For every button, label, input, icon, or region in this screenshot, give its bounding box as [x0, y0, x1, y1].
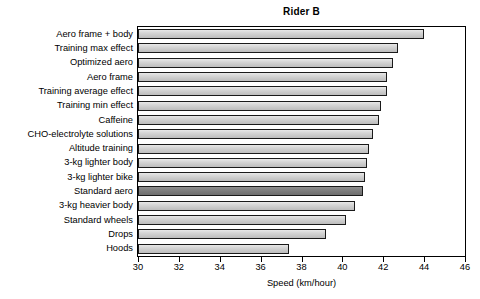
- bar-row: [138, 41, 465, 55]
- category-label: Training average effect: [0, 86, 133, 97]
- bar: [138, 229, 326, 239]
- x-axis-tick-label: 36: [246, 262, 276, 272]
- x-axis-title: Speed (km/hour): [137, 278, 466, 288]
- bar-row: [138, 99, 465, 113]
- x-axis-tick-label: 42: [368, 262, 398, 272]
- bar: [138, 158, 367, 168]
- chart-title: Rider B: [137, 6, 466, 17]
- category-label: Drops: [0, 229, 133, 240]
- category-label: 3-kg lighter bike: [0, 172, 133, 183]
- bar-row: [138, 142, 465, 156]
- x-axis-tick-label: 34: [205, 262, 235, 272]
- bar-row: [138, 156, 465, 170]
- category-label: Optimized aero: [0, 57, 133, 68]
- bar: [138, 101, 381, 111]
- category-label: 3-kg heavier body: [0, 200, 133, 211]
- category-label: Standard aero: [0, 186, 133, 197]
- category-label: 3-kg lighter body: [0, 157, 133, 168]
- x-axis-tick-label: 32: [164, 262, 194, 272]
- category-label: Standard wheels: [0, 215, 133, 226]
- bar-chart: Rider B Aero frame + bodyTraining max ef…: [0, 0, 480, 299]
- bar: [138, 244, 289, 254]
- bar-row: [138, 113, 465, 127]
- bar: [138, 86, 387, 96]
- category-label: Aero frame: [0, 72, 133, 83]
- bar-row: [138, 199, 465, 213]
- bar-row: [138, 170, 465, 184]
- bars-group: [138, 27, 465, 256]
- bar: [138, 29, 424, 39]
- category-label: Altitude training: [0, 143, 133, 154]
- bar-row: [138, 84, 465, 98]
- x-axis-tick-label: 38: [287, 262, 317, 272]
- bar: [138, 58, 393, 68]
- bar: [138, 144, 369, 154]
- bar-row: [138, 127, 465, 141]
- bar-row: [138, 70, 465, 84]
- bar: [138, 43, 398, 53]
- bar: [138, 115, 379, 125]
- x-axis-tick-label: 44: [409, 262, 439, 272]
- x-axis-tick-labels: 303234363840424446: [137, 262, 466, 274]
- x-axis-tick-label: 46: [450, 262, 480, 272]
- bar-row: [138, 227, 465, 241]
- bar: [138, 215, 346, 225]
- bar: [138, 72, 387, 82]
- category-label: Training max effect: [0, 43, 133, 54]
- bar: [138, 129, 373, 139]
- bar-row: [138, 242, 465, 256]
- category-label: CHO-electrolyte solutions: [0, 129, 133, 140]
- x-axis-tick-label: 40: [327, 262, 357, 272]
- bar-row: [138, 56, 465, 70]
- bar: [138, 186, 363, 196]
- bar-row: [138, 27, 465, 41]
- bar: [138, 172, 365, 182]
- category-axis-labels: Aero frame + bodyTraining max effectOpti…: [0, 27, 133, 256]
- bar-row: [138, 184, 465, 198]
- category-label: Aero frame + body: [0, 29, 133, 40]
- category-label: Caffeine: [0, 115, 133, 126]
- bar-row: [138, 213, 465, 227]
- category-label: Training min effect: [0, 100, 133, 111]
- bar: [138, 201, 355, 211]
- category-label: Hoods: [0, 243, 133, 254]
- x-axis-tick-label: 30: [123, 262, 153, 272]
